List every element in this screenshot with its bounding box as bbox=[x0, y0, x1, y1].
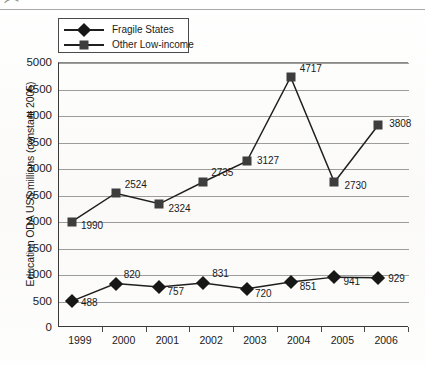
y-axis-tick-label: 5000 bbox=[0, 56, 52, 68]
y-axis-tick-label: 1500 bbox=[0, 242, 52, 254]
x-axis-tick-mark bbox=[189, 327, 190, 332]
data-point-label: 851 bbox=[300, 281, 317, 292]
y-axis-tick-label: 2500 bbox=[0, 189, 52, 201]
series-line-2 bbox=[72, 77, 378, 222]
x-axis-tick-label: 2000 bbox=[101, 334, 147, 346]
y-axis-tick-label: 500 bbox=[0, 295, 52, 307]
x-axis-tick-label: 2005 bbox=[319, 334, 365, 346]
data-point-label: 2735 bbox=[211, 167, 233, 178]
x-axis-tick-mark bbox=[408, 327, 409, 332]
x-axis-tick-mark bbox=[233, 327, 234, 332]
data-point-label: 488 bbox=[81, 297, 98, 308]
x-axis-tick-label: 2001 bbox=[144, 334, 190, 346]
y-axis-tick-label: 2000 bbox=[0, 215, 52, 227]
legend-key-square-icon bbox=[64, 38, 104, 51]
x-axis-tick-mark bbox=[146, 327, 147, 332]
y-axis-tick-label: 0 bbox=[0, 321, 52, 333]
legend-label-other-low-income: Other Low-income bbox=[104, 39, 194, 50]
legend-item-other-low-income: Other Low-income bbox=[59, 37, 188, 52]
line-chart-figure: Education ODA US$ millions (constant 200… bbox=[0, 0, 425, 365]
data-point-marker bbox=[286, 72, 295, 81]
x-axis-tick-label: 2004 bbox=[276, 334, 322, 346]
data-point-marker bbox=[111, 189, 120, 198]
chart-legend: Fragile States Other Low-income bbox=[58, 18, 189, 53]
data-point-marker bbox=[155, 199, 164, 208]
x-axis-tick-mark bbox=[321, 327, 322, 332]
data-point-marker bbox=[67, 217, 76, 226]
x-axis-tick-label: 2006 bbox=[363, 334, 409, 346]
legend-key-diamond-icon bbox=[64, 23, 104, 36]
data-point-label: 831 bbox=[212, 268, 229, 279]
data-point-marker bbox=[199, 178, 208, 187]
legend-label-fragile-states: Fragile States bbox=[104, 24, 174, 35]
data-point-label: 3808 bbox=[389, 118, 411, 129]
legend-item-fragile-states: Fragile States bbox=[59, 22, 188, 37]
data-point-marker bbox=[374, 121, 383, 130]
y-axis-tick-label: 4500 bbox=[0, 83, 52, 95]
data-point-label: 1990 bbox=[81, 220, 103, 231]
data-point-marker bbox=[242, 157, 251, 166]
x-axis-tick-mark bbox=[277, 327, 278, 332]
data-point-label: 2730 bbox=[344, 180, 366, 191]
data-point-marker bbox=[330, 178, 339, 187]
x-axis-tick-mark bbox=[364, 327, 365, 332]
x-axis-tick-label: 2002 bbox=[188, 334, 234, 346]
data-point-label: 2524 bbox=[125, 179, 147, 190]
data-point-label: 941 bbox=[343, 276, 360, 287]
data-point-label: 3127 bbox=[257, 155, 279, 166]
y-axis-tick-label: 1000 bbox=[0, 268, 52, 280]
x-axis-tick-mark bbox=[102, 327, 103, 332]
data-point-label: 2324 bbox=[168, 203, 190, 214]
data-point-label: 820 bbox=[124, 269, 141, 280]
y-axis-tick-label: 3500 bbox=[0, 136, 52, 148]
data-point-label: 4717 bbox=[300, 63, 322, 74]
y-axis-tick-label: 3000 bbox=[0, 162, 52, 174]
data-point-label: 929 bbox=[388, 273, 405, 284]
data-point-label: 720 bbox=[255, 288, 272, 299]
data-point-label: 757 bbox=[167, 286, 184, 297]
x-axis-tick-label: 2003 bbox=[232, 334, 278, 346]
x-axis-tick-label: 1999 bbox=[57, 334, 103, 346]
y-axis-tick-label: 4000 bbox=[0, 109, 52, 121]
